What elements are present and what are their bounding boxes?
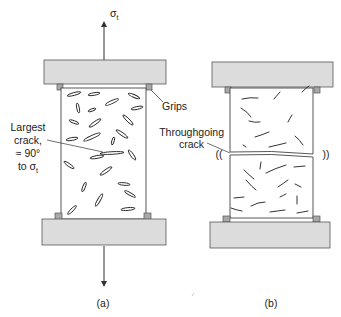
- caption-b: (b): [265, 297, 278, 309]
- label-grips: Grips: [162, 100, 187, 112]
- vibration-right: )): [323, 148, 330, 160]
- bottom-grip-block-a: [42, 219, 166, 245]
- tensile-test-diagram: σt: [0, 0, 341, 317]
- grip-b-top-right: [314, 87, 320, 93]
- label-largest: Largest: [10, 121, 45, 133]
- label-to-sigma: to σt: [18, 160, 38, 174]
- bottom-grip-block-b: [210, 222, 330, 248]
- stress-label-top: σt: [110, 7, 118, 21]
- specimen-b-upper: [230, 88, 313, 154]
- label-crack-b: crack: [179, 138, 205, 150]
- grip-b-bottom-right: [313, 216, 320, 222]
- top-grip-block-a: [44, 60, 166, 84]
- leader-grips: [151, 90, 163, 102]
- caption-a: (a): [97, 297, 110, 309]
- panel-a: σt: [10, 7, 187, 309]
- top-grip-block-b: [212, 62, 333, 87]
- label-angle: ≈ 90°: [16, 147, 41, 159]
- label-throughgoing: Throughgoing: [159, 126, 224, 138]
- grip-b-bottom-left: [223, 216, 230, 222]
- label-crack: crack,: [14, 134, 42, 146]
- stray-mark: [192, 293, 194, 296]
- specimen-b-lower: [230, 154, 313, 218]
- grip-a-top-right: [146, 84, 152, 90]
